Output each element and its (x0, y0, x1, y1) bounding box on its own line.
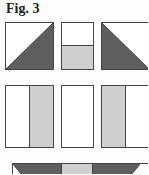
split-rectangle-light-white (102, 86, 149, 148)
split-rectangle-white-light (6, 86, 54, 148)
quilt-block-diagram (0, 0, 148, 174)
half-square-triangle-left (6, 23, 54, 70)
plain-rectangle-white (62, 86, 94, 148)
half-square-triangle-right (102, 23, 149, 70)
row-3-flying-geese (13, 164, 149, 175)
split-rectangle-horizontal (62, 23, 94, 70)
row-2 (6, 86, 149, 148)
row-1 (6, 23, 149, 70)
